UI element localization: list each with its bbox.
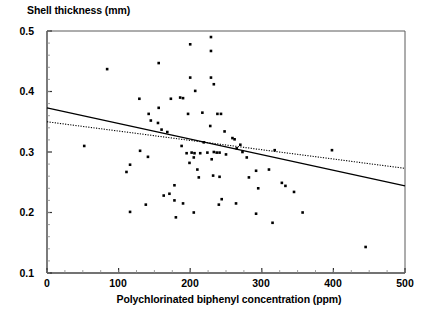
data-point <box>225 153 228 156</box>
data-point <box>203 141 206 144</box>
data-point <box>213 83 216 86</box>
data-point <box>255 212 258 215</box>
data-point <box>239 143 242 146</box>
data-point <box>216 113 219 116</box>
data-point <box>190 151 193 154</box>
data-point <box>192 211 195 214</box>
data-point <box>199 152 202 155</box>
data-point <box>193 152 196 155</box>
trend-lines-group <box>47 108 405 186</box>
data-point <box>293 191 296 194</box>
data-point <box>192 156 195 159</box>
data-point <box>125 171 128 174</box>
data-point <box>218 203 221 206</box>
data-point <box>213 151 216 154</box>
data-point <box>160 128 163 131</box>
data-point <box>145 203 148 206</box>
data-point <box>179 96 182 99</box>
data-point <box>364 246 367 249</box>
regression-line-solid <box>47 108 405 186</box>
data-point <box>212 174 215 177</box>
data-point <box>182 97 185 100</box>
data-point <box>235 147 238 150</box>
data-point <box>210 76 213 79</box>
data-point <box>235 202 238 205</box>
data-point <box>257 187 260 190</box>
data-point <box>201 111 204 114</box>
data-point <box>188 162 191 165</box>
data-point <box>162 194 165 197</box>
data-point <box>218 151 221 154</box>
data-point <box>255 169 258 172</box>
data-point <box>197 176 200 179</box>
data-point <box>209 125 212 128</box>
data-point <box>106 68 109 71</box>
data-point <box>210 36 213 39</box>
data-point <box>281 182 284 185</box>
data-point <box>157 62 160 65</box>
data-point <box>215 151 218 154</box>
data-point <box>173 199 176 202</box>
data-point <box>168 192 171 195</box>
data-point <box>248 176 251 179</box>
data-point <box>210 50 213 53</box>
data-point <box>220 113 223 116</box>
data-point <box>210 158 213 161</box>
data-point <box>157 122 160 125</box>
data-point <box>331 149 334 152</box>
data-point <box>182 202 185 205</box>
data-point <box>83 145 86 148</box>
data-point <box>166 131 169 134</box>
data-point <box>147 113 150 116</box>
data-point <box>241 151 244 154</box>
data-point <box>245 156 248 159</box>
data-point <box>194 90 197 93</box>
regression-line-dotted <box>47 122 405 169</box>
data-point <box>220 198 223 201</box>
data-point <box>301 211 304 214</box>
data-point <box>218 176 221 179</box>
data-point <box>180 145 183 148</box>
data-point <box>273 149 276 152</box>
data-point <box>129 163 132 166</box>
data-point <box>138 97 141 100</box>
data-point <box>189 76 192 79</box>
data-point <box>139 149 142 152</box>
axis-frame <box>47 31 405 273</box>
data-point <box>206 151 209 154</box>
data-point <box>284 185 287 188</box>
data-point <box>185 152 188 155</box>
data-point <box>271 221 274 224</box>
data-point <box>187 113 190 116</box>
data-point <box>175 216 178 219</box>
data-point <box>223 130 226 133</box>
data-point <box>173 184 176 187</box>
data-point <box>147 156 150 159</box>
data-point <box>150 119 153 122</box>
data-point <box>189 43 192 46</box>
data-point <box>233 138 236 141</box>
data-point <box>129 211 132 214</box>
data-point <box>196 168 199 171</box>
plot-canvas <box>0 0 430 317</box>
data-points-group <box>83 36 367 249</box>
minor-tick-marks <box>47 31 405 273</box>
data-point <box>268 168 271 171</box>
data-point <box>157 107 160 110</box>
scatter-plot-figure: Shell thickness (mm) 0.5 0.4 0.3 0.2 0.1… <box>0 0 430 317</box>
data-point <box>170 97 173 100</box>
